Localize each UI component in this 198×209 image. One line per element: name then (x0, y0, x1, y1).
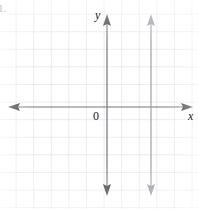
axes-and-plot-layer (0, 0, 198, 209)
coordinate-plane-figure: y x 0 1. (0, 0, 198, 209)
problem-number-label: 1. (0, 3, 6, 14)
x-axis-label: x (188, 110, 193, 122)
origin-label: 0 (93, 110, 99, 122)
x-axis (8, 103, 193, 111)
y-axis-label: y (95, 9, 100, 21)
plotted-vertical-line (147, 14, 155, 196)
y-axis (103, 14, 111, 196)
